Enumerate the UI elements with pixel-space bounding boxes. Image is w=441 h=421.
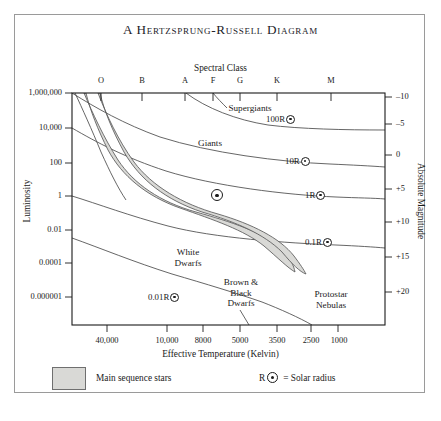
left-axis-ticks — [65, 93, 72, 297]
region-label-protostar-nebulas: Protostar Nebulas — [295, 289, 367, 310]
radius-label-100r: 100R — [266, 114, 295, 124]
temperature-tick-40000: 40,000 — [79, 336, 135, 345]
solar-symbol-icon — [267, 372, 278, 383]
radius-label-0.1r: 0.1R — [305, 237, 332, 247]
spectral-class-tick-f: F — [203, 76, 223, 85]
right-axis-ticks — [385, 97, 392, 292]
legend-solar-radius: R = Solar radius — [259, 372, 335, 383]
magnitude-tick-minus10: –10 — [396, 92, 430, 101]
magnitude-tick-plus10: +10 — [396, 217, 430, 226]
spectral-class-tick-g: G — [230, 76, 250, 85]
radius-label-0.01r: 0.01R — [148, 292, 179, 302]
radius-label-10r: 10R — [285, 156, 310, 166]
spectral-class-tick-m: M — [321, 76, 341, 85]
radius-label-0.01r-text: 0.01R — [148, 292, 169, 302]
curve-hot-edge — [75, 93, 126, 200]
top-axis-caption: Spectral Class — [0, 63, 441, 73]
magnitude-tick-plus20: +20 — [396, 287, 430, 296]
legend-radius-prefix: R — [259, 373, 265, 383]
radius-label-10r-text: 10R — [285, 156, 300, 166]
spectral-class-tick-o: O — [91, 76, 111, 85]
legend-label-main-sequence: Main sequence stars — [96, 373, 171, 383]
legend-swatch-main-sequence — [52, 367, 86, 390]
bottom-axis-ticks — [107, 325, 338, 332]
luminosity-tick-0.01: 0.01 — [0, 225, 62, 234]
spectral-class-tick-a: A — [175, 76, 195, 85]
solar-symbol-icon — [301, 157, 310, 166]
x-axis-caption: Effective Temperature (Kelvin) — [0, 349, 441, 359]
region-label-supergiants: Supergiants — [205, 103, 295, 114]
radius-label-100r-text: 100R — [266, 114, 285, 124]
magnitude-tick-minus5: –5 — [396, 119, 430, 128]
radius-label-0.1r-text: 0.1R — [305, 237, 322, 247]
hr-diagram-figure: A Hertzsprung-Russell Diagram — [0, 0, 441, 421]
luminosity-tick-1: 1 — [0, 191, 62, 200]
magnitude-tick-plus15: +15 — [396, 252, 430, 261]
luminosity-tick-100: 100 — [0, 158, 62, 167]
curve-5000k-tick-line — [240, 310, 249, 325]
solar-symbol-icon — [170, 293, 179, 302]
region-label-brown-black-dwarfs: Brown & Black Dwarfs — [206, 277, 276, 309]
luminosity-tick-0.000001: 0.000001 — [0, 292, 62, 301]
solar-symbol-icon — [286, 115, 295, 124]
magnitude-tick-plus5: +5 — [396, 184, 430, 193]
chart-legend: Main sequence stars R = Solar radius — [14, 364, 425, 394]
sun-data-point — [211, 185, 223, 197]
temperature-tick-1000: 1000 — [315, 336, 363, 345]
luminosity-tick-0.0001: 0.0001 — [0, 258, 62, 267]
spectral-class-tick-k: K — [267, 76, 287, 85]
spectral-class-tick-b: B — [132, 76, 152, 85]
legend-radius-definition: = Solar radius — [283, 373, 335, 383]
magnitude-tick-0: 0 — [396, 150, 430, 159]
y-axis-right-caption: Absolute Magnitude — [416, 153, 426, 249]
region-label-giants: Giants — [180, 138, 240, 149]
region-label-white-dwarfs: White Dwarfs — [152, 247, 224, 268]
solar-symbol-icon — [323, 238, 332, 247]
luminosity-tick-10000: 10,000 — [0, 123, 62, 132]
radius-label-1r-text: 1R — [305, 190, 315, 200]
solar-symbol-icon — [316, 191, 325, 200]
luminosity-tick-1000000: 1,000,000 — [0, 88, 62, 97]
radius-label-1r: 1R — [305, 190, 325, 200]
